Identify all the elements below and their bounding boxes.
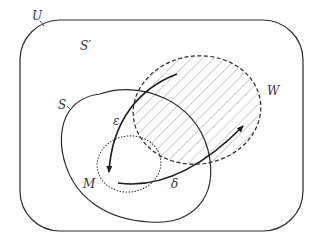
set-diagram: U S′ S W M ε δ — [0, 0, 316, 243]
label-S: S — [58, 98, 66, 112]
label-S-leader — [67, 106, 71, 110]
set-W-hatch-fill — [120, 50, 270, 170]
label-delta: δ — [171, 177, 178, 191]
label-S-prime: S′ — [80, 39, 91, 53]
label-W: W — [267, 84, 281, 98]
label-M: M — [82, 177, 96, 191]
label-U: U — [32, 9, 43, 23]
label-epsilon: ε — [113, 114, 119, 128]
